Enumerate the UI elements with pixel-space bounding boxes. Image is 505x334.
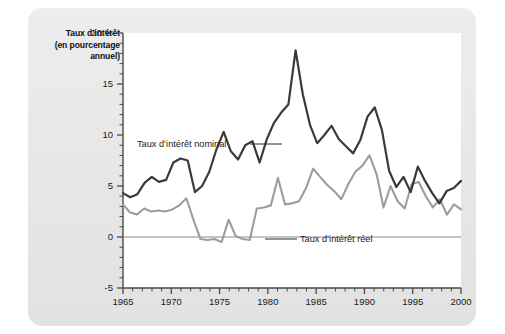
annotation-nominal-label: Taux d’intérêt nominal (137, 139, 226, 149)
y-axis-tick-labels: 20 %151050-5 (91, 27, 113, 293)
svg-text:1970: 1970 (161, 296, 182, 307)
svg-text:0: 0 (108, 231, 113, 242)
svg-text:1985: 1985 (306, 296, 327, 307)
svg-text:10: 10 (102, 129, 113, 140)
x-axis-tick-labels: 19651970197519801985199019952000 (112, 296, 471, 307)
svg-text:1965: 1965 (112, 296, 133, 307)
svg-text:1980: 1980 (257, 296, 278, 307)
svg-text:5: 5 (108, 180, 113, 191)
svg-text:1990: 1990 (354, 296, 375, 307)
annotation-nominal: Taux d’intérêt nominal (137, 139, 282, 149)
series-line-nominal (123, 50, 461, 203)
annotation-real-label: Taux d’intérêt réel (300, 234, 373, 244)
series-line-real (123, 155, 461, 242)
svg-text:1995: 1995 (402, 296, 423, 307)
y-axis-ticks (117, 33, 123, 288)
svg-text:2000: 2000 (450, 296, 471, 307)
svg-text:-5: -5 (105, 282, 113, 293)
svg-text:1975: 1975 (209, 296, 230, 307)
svg-text:15: 15 (102, 78, 113, 89)
svg-text:20 %: 20 % (91, 27, 113, 38)
x-axis-ticks (123, 288, 461, 294)
chart-plot: 20 %151050-5 196519701975198019851990199… (0, 0, 505, 334)
annotation-real: Taux d’intérêt réel (265, 234, 373, 244)
figure-root: Taux d’intérêt (en pourcentage annuel) 2… (0, 0, 505, 334)
